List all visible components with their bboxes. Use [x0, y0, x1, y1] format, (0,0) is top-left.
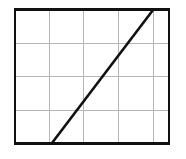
line-chart [0, 0, 186, 159]
figure-container [0, 0, 186, 159]
